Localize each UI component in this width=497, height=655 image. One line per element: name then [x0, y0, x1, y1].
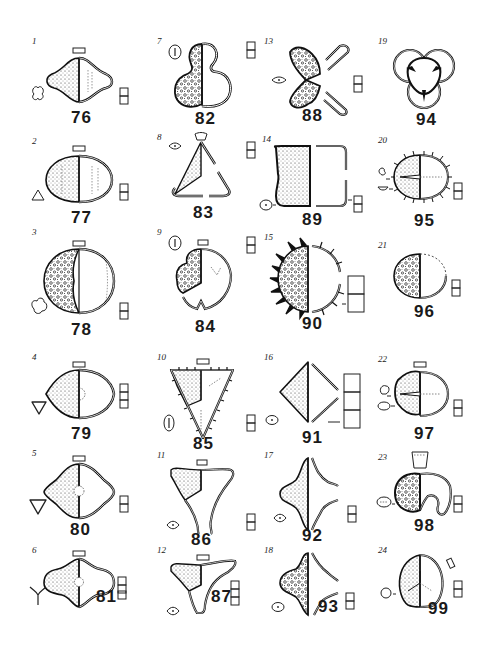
specimen-number: 84 [195, 317, 216, 337]
figure-88: 13 88 [262, 30, 382, 130]
specimen-number: 95 [414, 211, 435, 231]
specimen-drawing [376, 350, 496, 450]
specimen-number: 98 [414, 516, 435, 536]
figure-81: 6 81 [28, 545, 148, 645]
figure-89: 14 89 [262, 130, 382, 230]
figure-76: 1 76 [28, 30, 148, 130]
specimen-number: 94 [416, 110, 437, 130]
figure-79: 4 79 [28, 350, 148, 450]
specimen-number: 96 [414, 302, 435, 322]
figure-96: 21 96 [376, 240, 496, 340]
specimen-number: 78 [71, 320, 92, 340]
figure-95: 20 95 [376, 135, 496, 235]
figure-98: 23 98 [376, 448, 496, 548]
specimen-number: 81 [96, 587, 117, 607]
specimen-drawing [155, 350, 275, 450]
specimen-number: 82 [195, 109, 216, 129]
specimen-number: 89 [302, 210, 323, 230]
figure-82: 7 82 [155, 30, 275, 130]
specimen-number: 93 [318, 597, 339, 617]
specimen-drawing [28, 225, 148, 325]
specimen-drawing [28, 545, 148, 645]
pollen-plate: 1 76 2 77 3 [0, 0, 497, 655]
figure-77: 2 77 [28, 128, 148, 228]
specimen-number: 90 [302, 314, 323, 334]
figure-94: 19 94 [376, 30, 496, 130]
specimen-number: 83 [193, 203, 214, 223]
figure-90: 15 90 [262, 232, 382, 332]
specimen-number: 88 [302, 106, 323, 126]
specimen-number: 92 [302, 526, 323, 546]
figure-97: 22 97 [376, 350, 496, 450]
specimen-drawing [155, 128, 275, 228]
specimen-number: 79 [71, 424, 92, 444]
specimen-number: 87 [211, 587, 232, 607]
specimen-drawing [155, 448, 275, 548]
figure-80: 5 80 [28, 448, 148, 548]
specimen-number: 76 [71, 108, 92, 128]
specimen-number: 97 [414, 424, 435, 444]
figure-84: 9 84 [155, 225, 275, 325]
figure-86: 11 86 [155, 448, 275, 548]
figure-92: 17 92 [262, 448, 382, 548]
figure-85: 10 85 [155, 350, 275, 450]
specimen-drawing [376, 135, 496, 235]
figure-78: 3 78 [28, 225, 148, 325]
specimen-drawing [376, 240, 496, 340]
specimen-number: 91 [302, 428, 323, 448]
figure-87: 12 87 [155, 545, 275, 645]
figure-99: 24 99 [376, 545, 496, 645]
specimen-drawing [376, 545, 496, 645]
figure-91: 16 91 [262, 348, 382, 448]
specimen-number: 80 [70, 520, 91, 540]
specimen-drawing [262, 545, 382, 645]
specimen-drawing [376, 448, 496, 548]
figure-93: 18 93 [262, 545, 382, 645]
specimen-number: 99 [428, 599, 449, 619]
figure-83: 8 83 [155, 128, 275, 228]
specimen-drawing [155, 225, 275, 325]
